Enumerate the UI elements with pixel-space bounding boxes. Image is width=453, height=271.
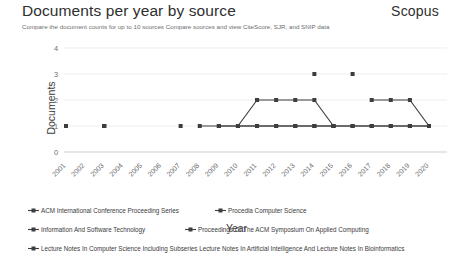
data-point-marker[interactable]: [389, 98, 393, 102]
data-point-marker[interactable]: [331, 124, 335, 128]
x-tick-label: 2005: [127, 162, 143, 178]
x-tick-label: 2001: [51, 162, 67, 178]
x-tick-label: 2009: [204, 162, 220, 178]
legend-item-label: Lecture Notes In Computer Science Includ…: [39, 244, 436, 253]
page-subtitle: Compare the document counts for up to 10…: [22, 23, 329, 30]
y-tick-label: 4: [54, 44, 58, 53]
x-tick-label: 2002: [70, 162, 86, 178]
series-2: [64, 98, 259, 128]
x-tick-label: 2013: [280, 162, 296, 178]
data-point-marker[interactable]: [102, 124, 106, 128]
y-tick-label: 3: [54, 70, 58, 79]
data-point-marker[interactable]: [408, 98, 412, 102]
page-title: Documents per year by source: [22, 2, 236, 20]
x-tick-label: 2019: [395, 162, 411, 178]
x-tick-label: 2007: [165, 162, 181, 178]
data-point-marker[interactable]: [64, 124, 68, 128]
data-point-marker[interactable]: [370, 98, 374, 102]
x-axis-ticks: 2001200220032004200520062007200820092010…: [51, 162, 430, 178]
x-tick-label: 2010: [223, 162, 239, 178]
legend-marker-icon: [185, 225, 196, 234]
x-tick-label: 2012: [261, 162, 277, 178]
data-point-marker[interactable]: [389, 124, 393, 128]
data-point-marker[interactable]: [427, 124, 431, 128]
legend-marker-icon: [28, 225, 39, 234]
data-point-marker[interactable]: [198, 124, 202, 128]
y-axis-ticks: 01234: [54, 44, 58, 157]
legend-marker-icon: [28, 244, 39, 253]
page-header: Documents per year by source Scopus Comp…: [0, 0, 453, 36]
legend-item-1[interactable]: Procedia Computer Science: [215, 206, 306, 215]
legend-marker-icon: [28, 206, 39, 215]
y-tick-label: 0: [54, 148, 58, 157]
scopus-documents-per-year-page: Documents per year by source Scopus Comp…: [0, 0, 453, 271]
data-point-marker[interactable]: [217, 124, 221, 128]
data-point-marker[interactable]: [274, 98, 278, 102]
data-point-marker[interactable]: [351, 124, 355, 128]
legend-item-label: Proceedings Of The ACM Symposium On Appl…: [196, 225, 369, 234]
x-tick-label: 2015: [318, 162, 334, 178]
chart-container: Documents 01234 200120022003200420052006…: [0, 36, 453, 201]
data-point-marker[interactable]: [255, 98, 259, 102]
legend-item-label: ACM International Conference Proceeding …: [39, 206, 179, 215]
line-chart-plot: 01234 2001200220032004200520062007200820…: [0, 36, 453, 201]
y-tick-label: 2: [54, 96, 58, 105]
data-point-marker[interactable]: [293, 124, 297, 128]
data-point-marker[interactable]: [274, 124, 278, 128]
data-point-marker[interactable]: [312, 98, 316, 102]
series-line: [372, 100, 429, 126]
data-point-marker[interactable]: [312, 72, 316, 76]
data-point-marker[interactable]: [312, 124, 316, 128]
legend-item-2[interactable]: Information And Software Technology: [28, 225, 145, 234]
series-0: [236, 98, 431, 128]
x-tick-label: 2016: [337, 162, 353, 178]
x-tick-label: 2017: [356, 162, 372, 178]
data-point-marker[interactable]: [293, 98, 297, 102]
series-line: [238, 100, 334, 126]
x-tick-label: 2004: [108, 162, 124, 178]
legend-item-3[interactable]: Proceedings Of The ACM Symposium On Appl…: [185, 225, 369, 234]
data-point-marker[interactable]: [370, 124, 374, 128]
x-tick-label: 2003: [89, 162, 105, 178]
data-point-marker[interactable]: [408, 124, 412, 128]
x-tick-label: 2020: [414, 162, 430, 178]
x-tick-label: 2008: [184, 162, 200, 178]
x-tick-label: 2006: [146, 162, 162, 178]
legend-item-0[interactable]: ACM International Conference Proceeding …: [28, 206, 179, 215]
x-tick-label: 2014: [299, 162, 315, 178]
scopus-brand-label: Scopus: [391, 3, 439, 19]
legend-item-4[interactable]: Lecture Notes In Computer Science Includ…: [28, 244, 436, 253]
legend-item-label: Information And Software Technology: [39, 225, 145, 234]
data-point-marker[interactable]: [236, 124, 240, 128]
data-point-marker[interactable]: [179, 124, 183, 128]
y-tick-label: 1: [54, 122, 58, 131]
legend-item-label: Procedia Computer Science: [226, 206, 306, 215]
data-point-marker[interactable]: [351, 72, 355, 76]
data-point-marker[interactable]: [255, 124, 259, 128]
legend-marker-icon: [215, 206, 226, 215]
x-tick-label: 2011: [242, 162, 258, 178]
x-tick-label: 2018: [376, 162, 392, 178]
